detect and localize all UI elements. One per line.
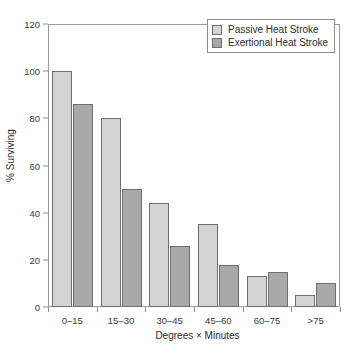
y-tick-mark — [43, 165, 48, 166]
legend-swatch-icon — [212, 25, 222, 35]
x-axis-title: Degrees × Minutes — [0, 330, 355, 341]
x-tick-mark — [48, 307, 49, 312]
y-tick-label: 0 — [35, 302, 40, 313]
plot-area — [48, 24, 340, 307]
legend-item-exertional: Exertional Heat Stroke — [212, 36, 328, 49]
x-tick-mark — [291, 307, 292, 312]
y-tick-mark — [43, 259, 48, 260]
y-tick-mark — [43, 71, 48, 72]
y-tick-mark — [43, 212, 48, 213]
y-tick-label: 60 — [29, 160, 40, 171]
x-tick-mark — [194, 307, 195, 312]
legend-swatch-icon — [212, 38, 222, 48]
y-axis-title: % Surviving — [5, 116, 16, 196]
x-tick-label: 0–15 — [62, 315, 83, 326]
legend-label: Passive Heat Stroke — [228, 24, 319, 36]
y-tick-label: 80 — [29, 113, 40, 124]
x-tick-label: 15–30 — [108, 315, 134, 326]
y-tick-label: 40 — [29, 207, 40, 218]
y-tick-label: 20 — [29, 254, 40, 265]
y-tick-mark — [43, 118, 48, 119]
legend-label: Exertional Heat Stroke — [228, 37, 328, 49]
x-tick-label: 30–45 — [156, 315, 182, 326]
x-tick-mark — [145, 307, 146, 312]
x-tick-label: >75 — [308, 315, 324, 326]
x-tick-mark — [243, 307, 244, 312]
x-tick-mark — [340, 307, 341, 312]
legend-item-passive: Passive Heat Stroke — [212, 23, 328, 36]
x-tick-label: 45–60 — [205, 315, 231, 326]
x-tick-mark — [97, 307, 98, 312]
chart-legend: Passive Heat StrokeExertional Heat Strok… — [207, 19, 335, 53]
y-tick-label: 120 — [24, 19, 40, 30]
y-tick-mark — [43, 24, 48, 25]
x-tick-label: 60–75 — [254, 315, 280, 326]
y-tick-label: 100 — [24, 66, 40, 77]
